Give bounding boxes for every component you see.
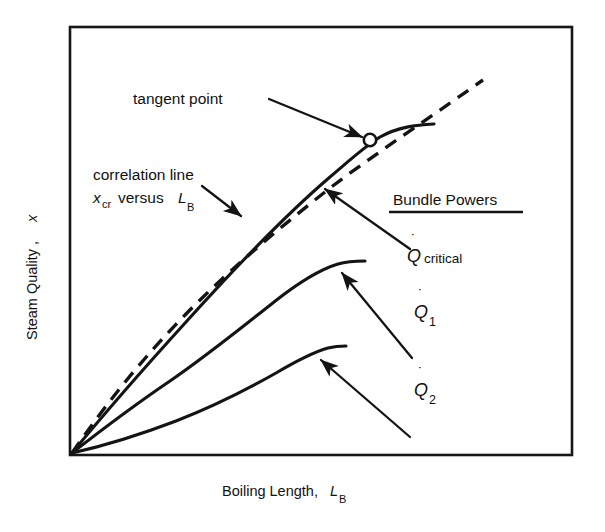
x-axis-label-text: Boiling Length,: [222, 483, 318, 499]
legend-q1-symbol: Q: [414, 302, 428, 322]
legend-q2-subscript: 2: [429, 393, 436, 407]
annotation-tangent-point: tangent point: [133, 90, 223, 107]
annotation-versus: versus: [118, 189, 164, 206]
annotation-lb-subscript: B: [187, 201, 194, 213]
legend-title: Bundle Powers: [393, 191, 498, 208]
x-axis-label-symbol: L: [330, 483, 338, 499]
leader-correlation-line: [202, 186, 241, 216]
leader-q2: [321, 360, 410, 437]
legend-entry-q-critical: ˙ Q critical: [407, 231, 462, 266]
legend-q1-subscript: 1: [429, 315, 436, 329]
curve-q1: [72, 261, 365, 453]
leader-tangent-point: [269, 99, 362, 137]
y-axis-label: Steam Quality , x: [24, 214, 40, 340]
annotation-xcr-symbol: x: [92, 189, 102, 206]
legend-q-critical-symbol: Q: [407, 246, 421, 266]
x-axis-label: Boiling Length, L B: [222, 483, 346, 505]
legend-entry-q1: ˙ Q 1: [414, 286, 436, 329]
legend-q2-symbol: Q: [414, 380, 428, 400]
legend-q-critical-subscript: critical: [424, 251, 462, 266]
x-axis-label-subscript: B: [339, 493, 346, 505]
annotation-correlation-line: correlation line: [93, 166, 194, 183]
y-axis-label-text: Steam Quality ,: [24, 241, 40, 340]
tangent-point-marker: [364, 134, 376, 146]
annotation-correlation-formula: x cr versus L B: [92, 189, 194, 213]
figure-container: tangent point correlation line x cr vers…: [0, 0, 605, 532]
y-axis-label-symbol: x: [24, 214, 40, 223]
annotation-xcr-subscript: cr: [102, 198, 112, 210]
annotation-lb-symbol: L: [178, 189, 187, 206]
chart-svg: tangent point correlation line x cr vers…: [0, 0, 605, 532]
leader-q1: [342, 273, 412, 358]
legend-q2-dot: ˙: [418, 364, 423, 381]
legend-entry-q2: ˙ Q 2: [414, 364, 436, 407]
legend-q1-dot: ˙: [418, 286, 423, 303]
